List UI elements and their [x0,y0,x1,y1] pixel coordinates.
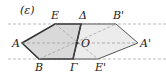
label-Delta: Δ [78,9,87,22]
label-A: A [11,37,20,50]
center-point-O [76,42,79,45]
label-Aprime: A' [139,37,151,50]
label-Gamma: Γ [69,61,78,74]
original-hexagon [22,24,81,59]
label-B: B [34,61,43,74]
symmetry-diagram: (ε) A E Δ B' O A' B Γ E' [0,0,166,76]
label-O: O [81,37,90,50]
label-E: E [50,9,59,22]
label-Bprime: B' [112,9,124,22]
line-label: (ε) [20,4,35,17]
label-Eprime: E' [94,61,106,74]
